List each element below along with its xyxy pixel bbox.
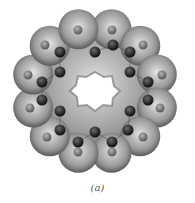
atom	[73, 137, 84, 148]
atom	[55, 47, 66, 58]
atom	[139, 41, 148, 50]
atom	[139, 133, 148, 142]
atom	[143, 95, 154, 106]
atom	[108, 148, 117, 157]
atom	[55, 125, 66, 136]
atom	[143, 77, 154, 88]
atom	[26, 104, 35, 113]
molecular-ring-figure	[0, 0, 195, 180]
atom	[55, 106, 66, 117]
figure-caption: (a)	[0, 182, 195, 193]
atom	[156, 104, 165, 113]
atom	[74, 148, 83, 157]
atom	[74, 26, 83, 35]
atom	[24, 71, 33, 80]
atom	[108, 40, 119, 51]
surface	[13, 9, 177, 173]
atom	[125, 67, 136, 78]
atom	[107, 137, 118, 148]
atom	[55, 67, 66, 78]
atom	[123, 125, 134, 136]
atom	[90, 47, 101, 58]
atom	[125, 106, 136, 117]
atom	[125, 47, 136, 58]
atom	[108, 26, 117, 35]
atom	[37, 95, 48, 106]
atom	[158, 71, 167, 80]
atom	[37, 77, 48, 88]
atom	[43, 133, 52, 142]
atom	[41, 41, 50, 50]
atom	[90, 127, 101, 138]
